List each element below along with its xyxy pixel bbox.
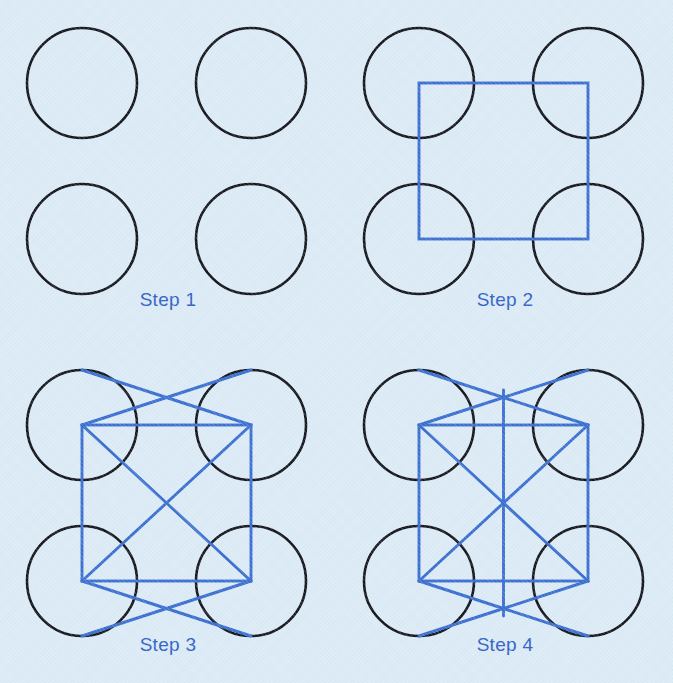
step-3-drawing [0, 342, 336, 683]
panel-step-2: Step 2 [337, 0, 673, 341]
step-4-drawing [337, 342, 673, 683]
panel-label-step-4: Step 4 [337, 634, 673, 656]
panel-label-step-3: Step 3 [0, 634, 336, 656]
panel-label-step-1: Step 1 [0, 289, 336, 311]
circle-bottom-left [27, 184, 137, 294]
panel-label-step-2: Step 2 [337, 289, 673, 311]
circle-bottom-right [196, 184, 306, 294]
circle-top-right [196, 28, 306, 138]
panel-step-4: Step 4 [337, 342, 673, 683]
steps-figure: Step 1 Step 2 Step 3 [0, 0, 673, 683]
circle-top-left [27, 28, 137, 138]
panel-step-1: Step 1 [0, 0, 336, 341]
connecting-square [419, 83, 588, 239]
panel-step-3: Step 3 [0, 342, 336, 683]
